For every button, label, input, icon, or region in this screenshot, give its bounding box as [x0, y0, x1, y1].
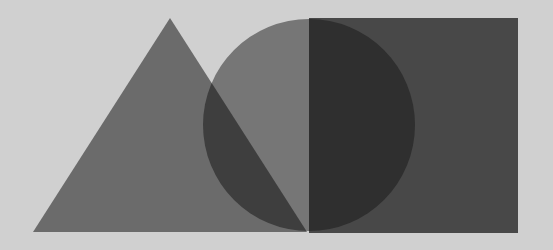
- shapes-artwork: [0, 0, 553, 250]
- geometric-composition: [0, 0, 553, 250]
